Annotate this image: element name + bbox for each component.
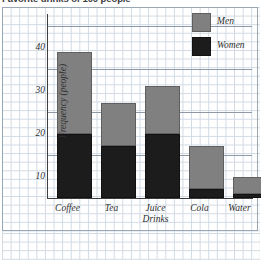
bar-cola-men-segment <box>189 146 224 189</box>
x-axis-line <box>47 198 253 199</box>
bar-tea <box>101 103 136 198</box>
x-label-coffee-text: Coffee <box>55 203 80 213</box>
legend-label-men: Men <box>217 16 234 26</box>
x-label-water-text: Water <box>228 203 250 213</box>
bar-tea-men-segment <box>101 103 136 146</box>
y-axis-title: Frequency (people) <box>58 41 68 161</box>
x-label-tea-text: Tea <box>105 203 118 213</box>
bar-cola-women-segment <box>189 189 224 198</box>
bar-chart-figure: Favorite drinks of 100 people 40 30 20 1… <box>0 0 261 260</box>
y-axis-line <box>47 14 48 199</box>
legend-label-women: Women <box>217 40 245 50</box>
bar-water-men-segment <box>233 177 261 194</box>
y-tick-label-20: 20 <box>21 128 45 138</box>
black-square-icon <box>192 37 211 56</box>
y-tick-label-30: 30 <box>21 85 45 95</box>
x-label-drinks-text: Drinks <box>128 214 183 225</box>
legend-item-women: Women <box>188 36 254 57</box>
legend-item-men: Men <box>188 12 254 33</box>
gray-square-icon <box>192 13 211 32</box>
y-tick-label-40: 40 <box>21 42 45 52</box>
bar-tea-women-segment <box>101 146 136 198</box>
bar-cola <box>189 146 224 198</box>
y-tick-label-10: 10 <box>21 171 45 181</box>
x-label-cola-text: Cola <box>190 203 208 213</box>
bar-water <box>233 177 261 199</box>
x-tick-label-water: Water <box>212 203 261 214</box>
legend: Men Women <box>188 12 254 59</box>
bar-juice-drinks-men-segment <box>145 86 180 133</box>
bar-juice-drinks-women-segment <box>145 134 180 199</box>
bar-juice-drinks <box>145 86 180 198</box>
